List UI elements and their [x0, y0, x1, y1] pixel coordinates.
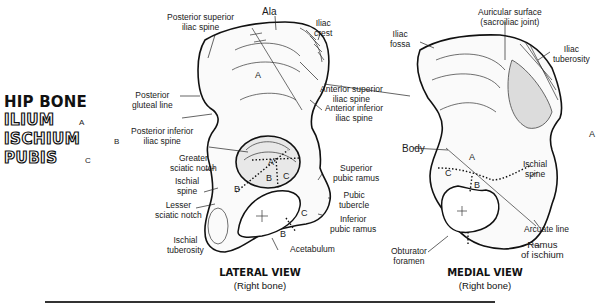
medial-view-title: MEDIAL VIEW [430, 267, 540, 278]
label-posterior-gluteal-line: Posterior gluteal line [132, 91, 173, 110]
label-ischial-tuberosity: Ischial tuberosity [167, 236, 204, 255]
label-iliac-fossa: Iliac fossa [390, 30, 410, 49]
label-ischial-spine-medial: Ischial spine [523, 160, 547, 179]
region-letter: C [301, 208, 308, 218]
region-letter: B [474, 180, 480, 190]
region-letter: A [255, 70, 261, 80]
label-arcuate-line: Arcuate line [524, 225, 569, 235]
label-body: Body [402, 144, 425, 154]
region-letter: C [283, 171, 290, 181]
region-letter: A [589, 129, 595, 139]
label-iliac-crest: Iliac crest [314, 19, 332, 38]
bottom-divider [45, 301, 495, 303]
region-letter: B [266, 173, 272, 183]
label-ala: Ala [262, 7, 276, 17]
hip-bone-illustration [0, 0, 602, 305]
label-ischial-spine: Ischial spine [175, 177, 199, 196]
label-posterior-superior-iliac-spine: Posterior superior iliac spine [167, 13, 234, 32]
label-pubic-tubercle: Pubic tubercle [339, 191, 369, 210]
region-letter: B [234, 184, 240, 194]
region-letter: A [268, 157, 274, 167]
region-letter: C [445, 168, 452, 178]
label-superior-pubic-ramus: Superior pubic ramus [333, 164, 379, 183]
lateral-view-title: LATERAL VIEW [205, 267, 315, 278]
label-anterior-inferior-iliac-spine: Anterior inferior iliac spine [325, 104, 383, 123]
medial-view-subtitle: (Right bone) [430, 280, 540, 291]
label-inferior-pubic-ramus: Inferior pubic ramus [330, 215, 376, 234]
label-greater-sciatic-notch: Greater sciatic notch [170, 154, 217, 173]
label-iliac-tuberosity: Iliac tuberosity [553, 45, 590, 64]
label-auricular-surface: Auricular surface (sacroiliac joint) [478, 8, 542, 27]
lateral-view-subtitle: (Right bone) [205, 280, 315, 291]
label-lesser-sciatic-notch: Lesser sciatic notch [155, 201, 202, 220]
label-posterior-inferior-iliac-spine: Posterior inferior iliac spine [131, 127, 193, 146]
region-letter: B [280, 229, 286, 239]
label-acetabulum: Acetabulum [290, 245, 335, 255]
label-anterior-superior-iliac-spine: Anterior superior iliac spine [320, 85, 383, 104]
label-obturator-foramen: Obturator foramen [391, 247, 427, 266]
label-ramus-of-ischium: Ramus of ischium [521, 240, 564, 259]
region-letter: A [469, 152, 475, 162]
